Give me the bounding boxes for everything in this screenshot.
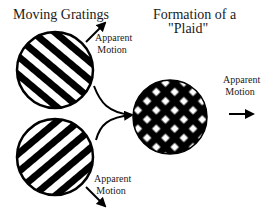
formation-title-line1: Formation of a xyxy=(153,8,236,22)
top-grating xyxy=(17,32,93,108)
plaid-pattern xyxy=(133,80,207,154)
top-motion-label-line1: Apparent xyxy=(95,33,129,43)
right-motion-label-line1: Apparent xyxy=(223,75,257,85)
moving-gratings-label: Moving Gratings xyxy=(13,8,109,22)
bottom-motion-label-line1: Apparent xyxy=(94,174,128,184)
bottom-motion-label-line2: Motion xyxy=(94,186,128,196)
bottom-grating xyxy=(17,119,93,195)
diagram-canvas: Moving Gratings Formation of a "Plaid" A… xyxy=(0,0,274,215)
merge-curve-bottom xyxy=(96,115,132,140)
merge-curve-top xyxy=(94,86,132,115)
top-motion-label-line2: Motion xyxy=(95,45,129,55)
right-motion-label-line2: Motion xyxy=(223,87,257,97)
diagram-graphics xyxy=(0,0,274,215)
formation-title-line2: "Plaid" xyxy=(168,22,208,36)
